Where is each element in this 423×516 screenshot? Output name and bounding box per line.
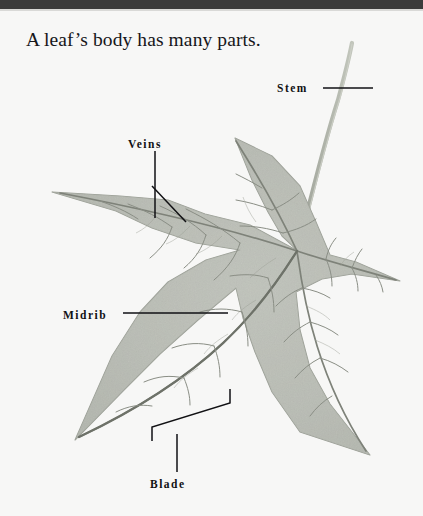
callout-label-stem: Stem bbox=[277, 82, 308, 94]
callout-label-blade: Blade bbox=[150, 478, 186, 490]
page-title: A leaf’s body has many parts. bbox=[26, 29, 261, 51]
callout-label-midrib: Midrib bbox=[63, 309, 107, 321]
leaf-texture bbox=[40, 130, 410, 470]
callout-label-veins: Veins bbox=[128, 138, 162, 150]
leaf-illustration bbox=[0, 0, 423, 516]
leaf-diagram-page: A leaf’s body has many parts. Stem Veins… bbox=[0, 0, 423, 516]
